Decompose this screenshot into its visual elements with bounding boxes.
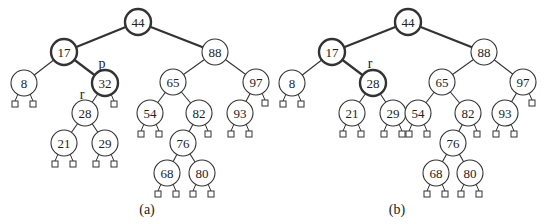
external-leaf-icon [111,161,117,167]
node-97: 97 [510,69,536,95]
external-leaf-icon [93,161,99,167]
node-key: 29 [99,136,112,151]
external-leaf-icon [246,131,252,137]
bst-deletion-figure: 4417832282129886597548293766880pr(a) 441… [0,0,544,224]
external-leaf-icon [70,161,76,167]
leaf-edge [461,184,464,191]
node-key: 8 [289,76,296,91]
node-key: 97 [517,75,531,90]
node-key: 28 [79,106,92,121]
nodes: 4417832282129886597548293766880 [11,9,269,186]
external-leaf-icon [442,191,448,197]
leaf-edge [409,124,412,131]
node-65: 65 [160,69,186,95]
leaf-edge [262,93,265,100]
leaf-edge [476,184,479,191]
external-leaf-icon [205,131,211,137]
leaf-edge [193,184,196,191]
node-key: 44 [132,15,146,30]
node-key: 68 [430,166,443,181]
node-82: 82 [186,100,212,126]
tree-a: 4417832282129886597548293766880pr(a) [11,9,269,218]
nodes: 44178282129886597548293766880 [279,9,536,186]
node-80: 80 [457,160,483,186]
node-key: 76 [177,136,191,151]
node-88: 88 [202,39,228,65]
external-leaf-icon [511,131,517,137]
node-88: 88 [471,39,497,65]
caption-a: (a) [139,202,155,218]
external-leaf-icon [399,131,405,137]
leaf-edge [158,184,161,191]
node-key: 93 [234,106,247,121]
external-leaf-icon [12,101,18,107]
leaf-edge [474,124,477,131]
node-key: 88 [478,45,491,60]
leaf-edge [399,124,402,131]
node-28: 28 [360,70,386,96]
leaf-edge [246,124,249,131]
node-68: 68 [154,160,180,186]
external-leaf-icon [458,191,464,197]
external-leaf-icon [298,101,304,107]
external-leaf-icon [493,131,499,137]
leaf-edge [496,124,499,131]
external-leaf-icon [156,131,162,137]
node-17: 17 [319,39,345,65]
node-key: 8 [21,76,28,91]
leaf-edge [96,154,99,161]
leaf-edge [384,124,387,131]
external-leaf-icon [190,191,196,197]
node-21: 21 [339,100,365,126]
external-leaf-icon [340,131,346,137]
node-key: 68 [161,166,174,181]
pointer-label-r: r [80,87,85,102]
leaf-edge [55,154,58,161]
node-key: 54 [412,106,426,121]
node-key: 44 [402,15,416,30]
leaf-edge [173,184,176,191]
node-68: 68 [423,160,449,186]
leaf-edge [141,124,144,131]
pointer-label-r: r [368,56,373,71]
leaf-edge [156,124,159,131]
leaf-edge [343,124,346,131]
node-key: 54 [144,106,158,121]
node-key: 76 [447,136,461,151]
external-leaf-icon [30,101,36,107]
node-65: 65 [429,69,455,95]
leaf-edge [427,184,430,191]
external-leaf-icon [474,131,480,137]
leaf-edge [358,124,361,131]
node-76: 76 [440,130,466,156]
node-44: 44 [125,9,151,35]
node-key: 28 [367,76,380,91]
node-17: 17 [51,39,77,65]
node-54: 54 [405,100,431,126]
node-key: 32 [99,76,112,91]
external-leaf-icon [262,100,268,106]
external-leaf-icon [381,131,387,137]
leaf-edge [283,94,286,101]
pointer-label-p: p [99,56,106,71]
node-key: 65 [167,75,180,90]
node-97: 97 [243,69,269,95]
leaf-edge [70,154,73,161]
node-key: 17 [326,45,340,60]
node-key: 97 [250,75,264,90]
node-key: 88 [209,45,222,60]
external-leaf-icon [208,191,214,197]
external-leaf-icon [173,191,179,197]
node-76: 76 [170,130,196,156]
node-key: 80 [464,166,477,181]
external-leaf-icon [111,101,117,107]
node-28: 28 [72,100,98,126]
external-leaf-icon [424,191,430,197]
node-29: 29 [380,100,406,126]
node-key: 80 [196,166,209,181]
leaf-edge [424,124,427,131]
external-leaf-icon [228,131,234,137]
leaf-edge [30,94,33,101]
node-32: 32 [92,70,118,96]
node-29: 29 [92,130,118,156]
